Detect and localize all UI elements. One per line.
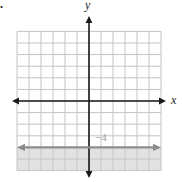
graph-figure: 6. y x −4 bbox=[0, 0, 182, 182]
y-axis-label: y bbox=[85, 0, 90, 13]
x-axis-label: x bbox=[171, 93, 176, 108]
problem-number: 6. bbox=[0, 0, 3, 12]
line-value-label: −4 bbox=[95, 131, 107, 143]
coordinate-plane bbox=[0, 0, 182, 182]
